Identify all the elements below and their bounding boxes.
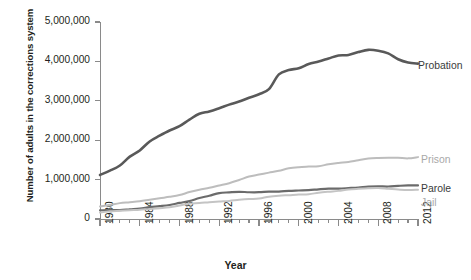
series-line-probation bbox=[100, 50, 418, 175]
series-label-jail: Jail bbox=[421, 197, 437, 208]
plot-area bbox=[0, 0, 471, 280]
series-label-probation: Probation bbox=[418, 60, 462, 71]
series-label-prison: Prison bbox=[421, 154, 450, 165]
corrections-population-line-chart: Number of adults in the corrections syst… bbox=[0, 0, 471, 280]
series-label-parole: Parole bbox=[421, 183, 451, 194]
